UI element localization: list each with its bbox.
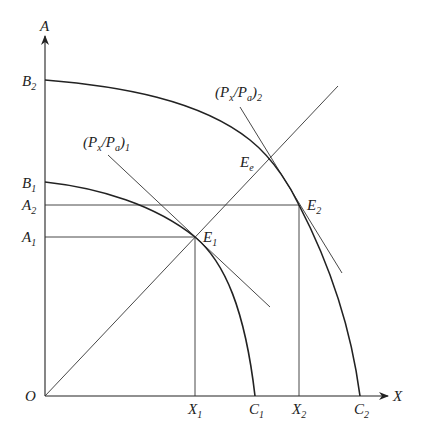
origin-ray	[45, 86, 338, 396]
price-label-2: (Px/Pa)2	[215, 84, 262, 103]
tick-b2: B2	[22, 73, 36, 92]
ppf-curve-1	[45, 182, 255, 396]
price-label-1: (Px/Pa)1	[83, 134, 130, 153]
tick-a1: A1	[21, 229, 36, 248]
x-axis-label: X	[392, 388, 403, 404]
origin-label: O	[25, 388, 36, 404]
tick-c2: C2	[354, 401, 369, 420]
y-axis-label: A	[39, 18, 50, 34]
price-line-1	[108, 155, 270, 307]
point-e2: E2	[306, 197, 321, 216]
tick-x1: X1	[187, 401, 202, 420]
point-ee: Ee	[239, 154, 254, 173]
ppf-diagram: A X O B2 B1 A2 A1 X1 C1 X2 C2 E1 E2 Ee (…	[0, 0, 428, 440]
tick-b1: B1	[22, 175, 36, 194]
tick-c1: C1	[249, 401, 264, 420]
tick-x2: X2	[291, 401, 306, 420]
tick-a2: A2	[21, 197, 36, 216]
